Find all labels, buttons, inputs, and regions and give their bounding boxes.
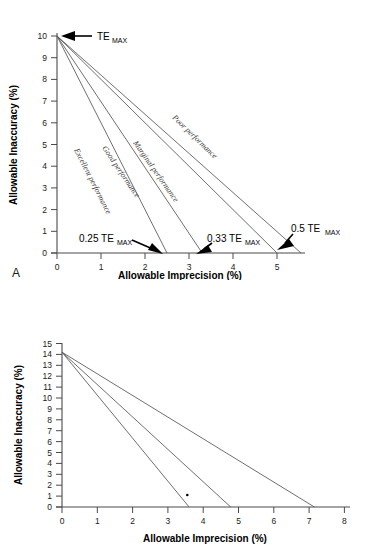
y-ticks-a: [51, 36, 57, 253]
x-ticks-b: [62, 507, 344, 513]
x-tick-labels-b: 0 1 2 3 4 5 6 7 8: [60, 516, 347, 526]
y-tick-label: 7: [42, 96, 47, 106]
x-tick-label: 5: [275, 262, 280, 272]
y-ticks-b: [56, 344, 62, 508]
x-tick-label: 4: [201, 516, 206, 526]
x-tick-label: 5: [236, 516, 241, 526]
x-tick-label: 7: [307, 516, 312, 526]
y-tick-label: 1: [42, 226, 47, 236]
panel-letter-a: A: [12, 266, 20, 280]
x-tick-label: 2: [130, 516, 135, 526]
y-tick-label: 6: [42, 118, 47, 128]
arrow-left-icon: [61, 31, 75, 41]
data-lines-b: [62, 352, 314, 507]
y-tick-label: 11: [43, 382, 52, 392]
arrow-down-right-icon: [148, 243, 163, 254]
y-axis-title-b: Allowable Inaccuracy (%): [13, 365, 24, 485]
half-te-max-annotation: 0.5 TE MAX: [277, 223, 341, 250]
series-line-2: [62, 352, 231, 507]
third-te-max-annotation: 0.33 TE MAX: [196, 233, 261, 254]
quarter-te-max-label: 0.25 TE: [79, 233, 114, 244]
chart-b-svg: 0 1 2 3 4 5 6 7 8 9 10 11 12 13 14 15: [0, 280, 365, 559]
y-tick-label: 8: [47, 415, 52, 425]
y-tick-label: 4: [42, 161, 47, 171]
y-tick-label: 9: [42, 53, 47, 63]
y-tick-label: 2: [47, 480, 52, 490]
te-max-label: TE: [97, 31, 110, 42]
y-axis-title-a: Allowable Inaccuracy (%): [8, 85, 19, 205]
chart-panel-a: 0 1 2 3 4 5 6 7 8 9 10: [0, 0, 365, 280]
x-tick-label: 0: [55, 262, 60, 272]
half-te-max-label: 0.5 TE: [291, 223, 321, 234]
y-tick-label: 9: [47, 404, 52, 414]
y-tick-label: 0: [42, 248, 47, 258]
y-tick-label: 7: [47, 426, 52, 436]
y-tick-label: 0: [47, 502, 52, 512]
series-line-1: [62, 352, 189, 507]
y-tick-label: 3: [42, 183, 47, 193]
x-tick-label: 3: [166, 516, 171, 526]
series-line-excellent: [57, 36, 167, 253]
x-tick-label: 1: [99, 262, 104, 272]
y-tick-label: 12: [43, 371, 53, 381]
y-tick-label: 3: [47, 469, 52, 479]
quarter-te-max-annotation: 0.25 TE MAX: [79, 233, 163, 254]
y-tick-label: 10: [43, 393, 53, 403]
series-line-good: [57, 36, 202, 253]
zone-label-poor: Poor performance: [170, 112, 220, 160]
y-tick-label: 6: [47, 437, 52, 447]
data-point-marker: [186, 494, 189, 497]
y-tick-labels-a: 0 1 2 3 4 5 6 7 8 9 10: [38, 31, 48, 258]
y-tick-label: 1: [47, 491, 52, 501]
series-line-marginal: [57, 36, 277, 253]
y-tick-label: 14: [43, 349, 53, 359]
third-te-max-label: 0.33 TE: [207, 233, 242, 244]
y-tick-label: 4: [47, 458, 52, 468]
x-ticks-a: [57, 253, 277, 259]
arrow-down-left-icon: [277, 239, 294, 250]
y-tick-label: 10: [38, 31, 48, 41]
x-tick-label: 0: [60, 516, 65, 526]
y-tick-labels-b: 0 1 2 3 4 5 6 7 8 9 10 11 12 13 14 15: [43, 339, 53, 513]
chart-a-svg: 0 1 2 3 4 5 6 7 8 9 10: [0, 0, 365, 280]
x-tick-label: 1: [95, 516, 100, 526]
quarter-te-max-sub: MAX: [117, 239, 133, 246]
y-tick-label: 8: [42, 74, 47, 84]
half-te-max-sub: MAX: [325, 229, 341, 236]
x-axis-title-a: Allowable Imprecision (%): [118, 270, 242, 280]
figure-container: 0 1 2 3 4 5 6 7 8 9 10: [0, 0, 365, 559]
chart-panel-b: 0 1 2 3 4 5 6 7 8 9 10 11 12 13 14 15: [0, 280, 365, 559]
y-tick-label: 5: [42, 140, 47, 150]
x-tick-label: 8: [342, 516, 347, 526]
x-axis-title-b: Allowable Imprecision (%): [143, 533, 267, 544]
series-line-poor: [57, 36, 301, 253]
zone-label-good: Good performance: [100, 144, 142, 200]
te-max-sub: MAX: [112, 37, 128, 44]
series-line-3: [62, 352, 314, 507]
data-lines-a: [57, 36, 301, 253]
y-tick-label: 13: [43, 360, 53, 370]
third-te-max-sub: MAX: [245, 239, 261, 246]
y-tick-label: 5: [47, 448, 52, 458]
te-max-annotation: TE MAX: [61, 31, 128, 44]
x-tick-label: 6: [271, 516, 276, 526]
y-tick-label: 15: [43, 339, 53, 349]
y-tick-label: 2: [42, 205, 47, 215]
